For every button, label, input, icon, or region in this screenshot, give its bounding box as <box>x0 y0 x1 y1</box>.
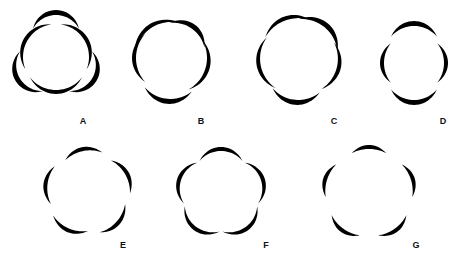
petal <box>176 163 197 204</box>
petal <box>184 206 219 234</box>
aestivation-diagram-canvas <box>0 0 458 260</box>
petal <box>299 17 338 51</box>
petal <box>145 87 192 104</box>
petal <box>352 145 387 153</box>
panel-b-shape <box>132 20 211 104</box>
panel-a-shape <box>12 10 100 94</box>
petal <box>245 163 266 204</box>
panels <box>12 10 448 236</box>
petal <box>65 147 102 161</box>
petal <box>322 42 342 89</box>
petal-left <box>380 43 391 82</box>
petal <box>132 34 145 82</box>
petal <box>332 215 360 236</box>
petal <box>100 204 126 232</box>
petal <box>43 166 55 204</box>
panel-label-b: B <box>198 116 205 126</box>
petal <box>322 164 336 197</box>
petal <box>169 20 204 47</box>
petal <box>378 215 406 236</box>
panel-e-shape <box>43 147 131 234</box>
panel-label-g: G <box>412 240 419 250</box>
panel-label-f: F <box>263 240 269 250</box>
panel-d-shape <box>380 21 448 105</box>
petal-inner <box>20 24 51 69</box>
petal-top <box>391 21 437 37</box>
panel-label-d: D <box>440 116 447 126</box>
petal-bottom <box>391 89 437 105</box>
petal-right <box>437 43 448 82</box>
panel-f-shape <box>176 147 266 235</box>
petal-inner <box>61 24 92 69</box>
panel-g-shape <box>322 145 415 236</box>
petal <box>273 88 320 105</box>
petal <box>200 147 243 161</box>
petal <box>53 215 88 233</box>
panel-label-a: A <box>80 116 87 126</box>
petal <box>188 39 210 89</box>
petal <box>402 164 416 197</box>
petal <box>256 37 276 88</box>
petal <box>111 160 132 193</box>
panel-c-shape <box>256 15 341 105</box>
petal <box>222 206 257 234</box>
panel-label-c: C <box>331 116 338 126</box>
panel-label-e: E <box>120 240 126 250</box>
